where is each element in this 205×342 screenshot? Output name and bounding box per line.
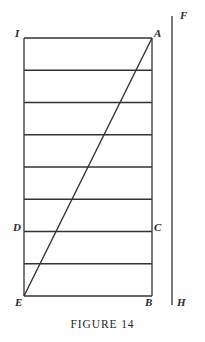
diagram-canvas	[0, 0, 205, 342]
vertex-label-A: A	[154, 28, 161, 39]
vertex-label-H: H	[177, 297, 186, 308]
vertex-label-D: D	[13, 222, 21, 233]
figure-caption: FIGURE 14	[0, 318, 205, 330]
figure-14-diagram: I A D C E B F H FIGURE 14	[0, 0, 205, 342]
vertex-label-B: B	[145, 297, 152, 308]
vertex-label-I: I	[15, 28, 19, 39]
vertex-label-C: C	[154, 222, 161, 233]
vertex-label-F: F	[180, 10, 187, 21]
vertex-label-E: E	[15, 297, 22, 308]
